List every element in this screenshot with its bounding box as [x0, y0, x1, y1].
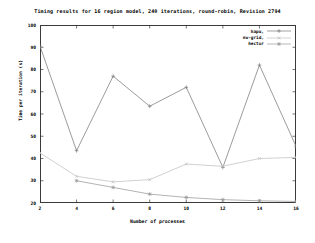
chart-legend: hapu,nw-grid,hector — [222, 28, 292, 47]
x-tick-label: 14 — [249, 206, 269, 211]
x-tick-label: 8 — [140, 206, 160, 211]
series-hector — [75, 179, 296, 203]
legend-label: hector — [248, 41, 264, 46]
x-tick-label: 2 — [30, 206, 50, 211]
y-tick-label: 100 — [12, 23, 36, 28]
y-tick-label: 30 — [12, 178, 36, 183]
y-tick-label: 90 — [12, 45, 36, 50]
chart-title: Timing results for 16 region model, 240 … — [0, 8, 315, 14]
y-axis-label: Time per iteration (s) — [18, 36, 23, 146]
legend-label: hapu, — [251, 29, 264, 34]
legend-key-plus-icon — [266, 28, 292, 34]
x-tick-label: 12 — [213, 206, 233, 211]
x-tick-label: 6 — [103, 206, 123, 211]
y-tick-label: 40 — [12, 156, 36, 161]
legend-item: hector — [222, 41, 292, 47]
legend-key-star-icon — [266, 41, 292, 47]
x-tick-label: 4 — [67, 206, 87, 211]
series-nw-grid- — [40, 152, 296, 184]
x-tick-label: 16 — [286, 206, 306, 211]
y-tick-label: 50 — [12, 134, 36, 139]
legend-label: nw-grid, — [243, 35, 264, 40]
y-tick-label: 20 — [12, 201, 36, 206]
legend-key-cross-icon — [266, 35, 292, 41]
y-tick-label: 80 — [12, 67, 36, 72]
y-tick-label: 70 — [12, 89, 36, 94]
chart-container: Timing results for 16 region model, 240 … — [0, 0, 315, 243]
plot-canvas — [40, 25, 296, 203]
x-axis-label: Number of processes — [0, 219, 315, 224]
series-hapu- — [40, 44, 296, 169]
x-tick-label: 10 — [176, 206, 196, 211]
y-tick-label: 60 — [12, 112, 36, 117]
